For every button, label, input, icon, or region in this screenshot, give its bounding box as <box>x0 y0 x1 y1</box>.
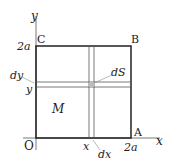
corner-a-label: A <box>133 126 143 139</box>
region-label: M <box>51 102 65 116</box>
origin-label: O <box>24 139 34 153</box>
area-element <box>89 82 94 87</box>
dy-label: dy <box>10 69 24 82</box>
y-2a-label: 2a <box>16 40 31 53</box>
x-axis-label: x <box>156 134 163 148</box>
corner-b-label: B <box>131 33 139 46</box>
dx-label: dx <box>98 148 112 161</box>
y-axis-label: y <box>30 9 38 23</box>
x-2a-label: 2a <box>123 141 138 154</box>
double-integral-diagram: y x O C B A 2a 2a y x dy dx dS M <box>0 0 172 167</box>
corner-c-label: C <box>37 33 45 46</box>
x-pos-label: x <box>83 140 90 153</box>
y-pos-label: y <box>25 83 33 96</box>
ds-label: dS <box>111 66 126 79</box>
region-square <box>36 46 131 138</box>
